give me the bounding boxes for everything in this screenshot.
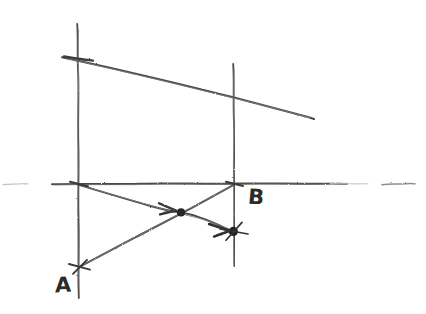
- label-a: A: [55, 274, 72, 296]
- horizontal-axis: [3, 183, 415, 185]
- hand-drawn-diagram: [0, 0, 426, 314]
- vertical-line-a: [77, 24, 79, 298]
- axis-left-dash: [3, 184, 28, 185]
- upper-slanted-line: [62, 56, 314, 119]
- sketch-canvas: A B: [0, 0, 426, 314]
- label-b: B: [247, 187, 265, 209]
- axis-right-dash: [382, 184, 415, 185]
- vector-lower-a-to-b: [79, 185, 234, 268]
- point-marker-intersection: [177, 208, 185, 216]
